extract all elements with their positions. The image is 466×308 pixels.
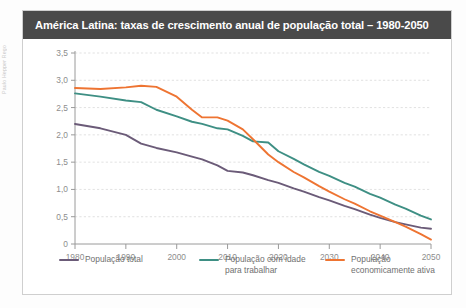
legend-label: População economicamente ativa: [351, 254, 445, 277]
chart-title-bar: América Latina: taxas de crescimento anu…: [23, 11, 451, 39]
legend-item-populacao-total: População total: [59, 254, 199, 277]
legend-item-idade-para-trabalhar: População com idade para trabalhar: [199, 254, 325, 277]
page-title: América Latina: taxas de crescimento anu…: [35, 19, 429, 31]
svg-text:3,0: 3,0: [56, 75, 68, 85]
legend-label: População com idade para trabalhar: [225, 254, 321, 277]
svg-text:0,5: 0,5: [56, 212, 68, 222]
svg-text:3,5: 3,5: [56, 48, 68, 58]
legend-label: População total: [85, 254, 143, 265]
line-swatch-icon: [59, 259, 79, 261]
chart-legend: População total População com idade para…: [59, 254, 449, 277]
line-swatch-icon: [199, 259, 219, 261]
page-root: Paulo Hepper Rego América Latina: taxas …: [0, 0, 466, 308]
svg-text:2,5: 2,5: [56, 103, 68, 113]
legend-item-economicamente-ativa: População economicamente ativa: [325, 254, 445, 277]
line-swatch-icon: [325, 259, 345, 261]
svg-text:1,5: 1,5: [56, 157, 68, 167]
chart-card: América Latina: taxas de crescimento anu…: [22, 10, 452, 295]
svg-text:2,0: 2,0: [56, 130, 68, 140]
svg-text:1,0: 1,0: [56, 184, 68, 194]
photo-credit: Paulo Hepper Rego: [1, 34, 13, 106]
svg-text:0: 0: [63, 239, 68, 249]
